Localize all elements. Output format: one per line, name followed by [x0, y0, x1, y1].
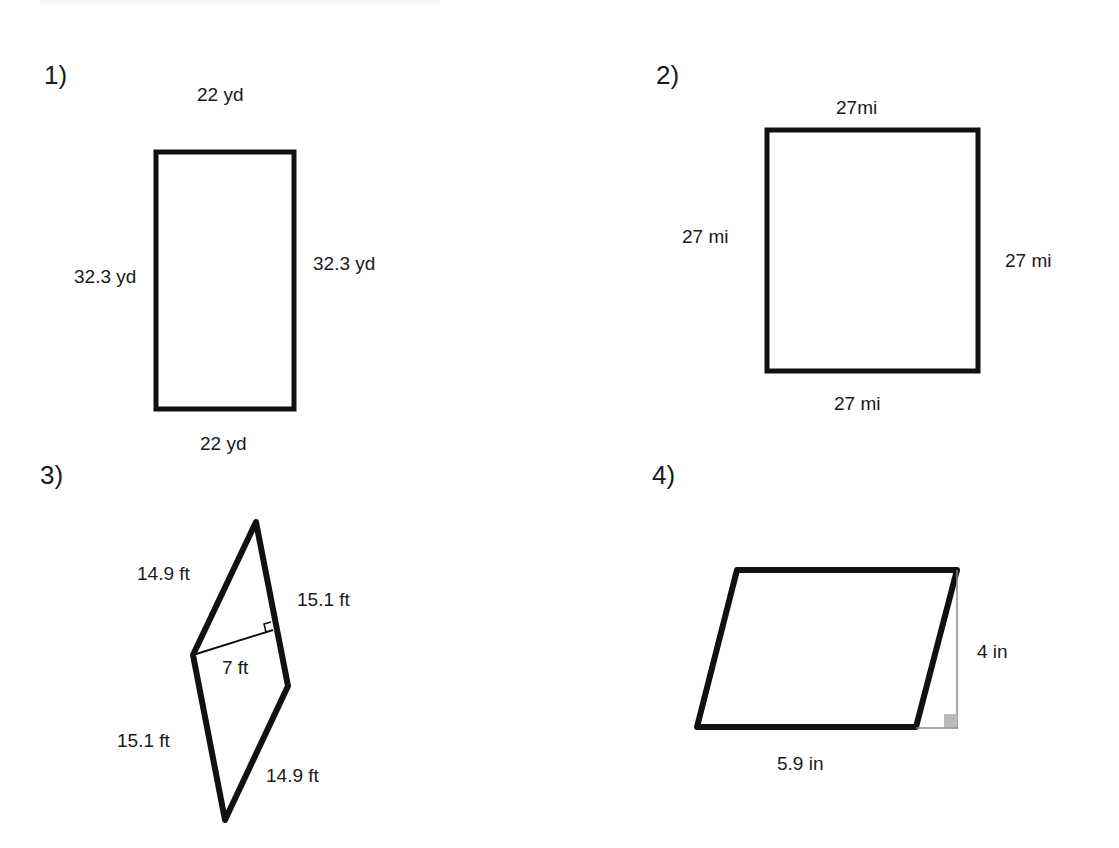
label-right-1: 32.3 yd [313, 253, 375, 275]
label-lower-left-3: 15.1 ft [117, 730, 170, 752]
label-bottom-2: 27 mi [834, 393, 880, 415]
label-top-1: 22 yd [197, 84, 243, 106]
problem-number-4: 4) [652, 460, 675, 491]
label-bottom-1: 22 yd [200, 433, 246, 455]
problem-number-3: 3) [40, 460, 63, 491]
label-left-1: 32.3 yd [74, 266, 136, 288]
label-left-2: 27 mi [682, 226, 728, 248]
label-height-3: 7 ft [222, 657, 248, 679]
label-lower-right-3: 14.9 ft [266, 765, 319, 787]
label-right-2: 27 mi [1005, 250, 1051, 272]
rectangle-shape-1 [156, 152, 294, 409]
label-top-2: 27mi [836, 97, 877, 119]
label-upper-left-3: 14.9 ft [137, 563, 190, 585]
label-height-4: 4 in [977, 641, 1008, 663]
square-shape-2 [767, 130, 978, 371]
label-upper-right-3: 15.1 ft [297, 589, 350, 611]
right-angle-mark-4 [944, 714, 957, 727]
parallelogram-shape-4 [697, 570, 957, 727]
problem-number-1: 1) [44, 60, 67, 91]
label-base-4: 5.9 in [777, 753, 823, 775]
figures-canvas [0, 0, 1119, 848]
problem-number-2: 2) [656, 60, 679, 91]
